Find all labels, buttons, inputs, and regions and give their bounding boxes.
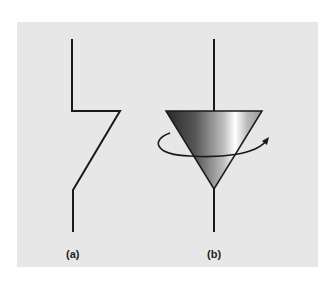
label-b: (b) — [207, 248, 221, 260]
diagram-b — [158, 39, 269, 232]
figure-graphics — [0, 0, 333, 283]
label-a: (a) — [66, 248, 79, 260]
diagram-a — [72, 39, 120, 232]
bent-line-icon — [72, 39, 120, 232]
cone-icon — [166, 111, 262, 189]
